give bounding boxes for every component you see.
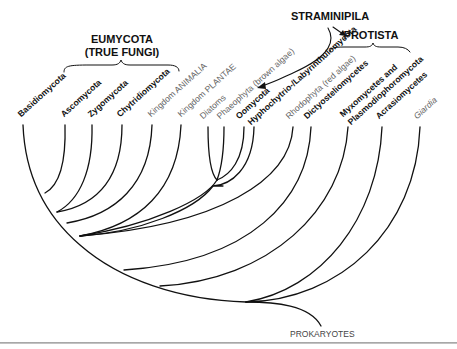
branch-plantae — [80, 125, 181, 236]
straminipila-label: STRAMINIPILA — [280, 10, 380, 23]
bottom-divider — [0, 342, 457, 344]
root-branch — [246, 302, 321, 326]
branch-phaeophyta — [217, 127, 224, 180]
branch-ascomycota — [45, 125, 65, 193]
branch-straminipila-stem2 — [80, 186, 213, 236]
branch-rhodophyta — [80, 127, 293, 236]
backbone-branch — [23, 125, 246, 302]
eumycota-label: EUMYCOTA (TRUE FUNGI) — [82, 33, 162, 59]
eumycota-subtitle: (TRUE FUNGI) — [82, 46, 162, 59]
branch-hyphochytrio — [213, 127, 254, 186]
branch-chytridiomycota — [57, 125, 122, 212]
branch-diatoms — [208, 127, 217, 180]
eumycota-title: EUMYCOTA — [82, 33, 162, 46]
prokaryotes-label: PROKARYOTES — [290, 329, 355, 339]
branch-dictyosteliomycetes — [124, 127, 311, 270]
branch-zygomycota — [57, 125, 92, 212]
phylogenetic-tree — [0, 0, 457, 349]
branch-animalia — [67, 125, 152, 223]
